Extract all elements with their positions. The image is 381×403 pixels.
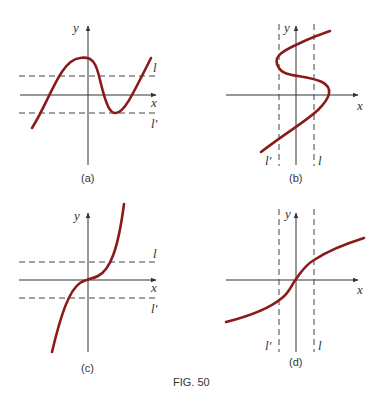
x-label: x <box>356 98 363 113</box>
y-label: y <box>282 20 290 35</box>
panel-d: y x l' l (d) <box>226 206 364 368</box>
line-l-label: l <box>153 246 157 261</box>
panel-c: y x l l' (c) <box>19 204 158 374</box>
panel-b: y x l' l (b) <box>226 20 363 184</box>
line-l-label: l <box>153 60 157 75</box>
line-l-label: l <box>318 153 322 168</box>
line-l-prime-label: l' <box>151 301 158 316</box>
x-label: x <box>150 280 157 295</box>
y-label: y <box>72 208 80 223</box>
panel-label: (d) <box>289 356 302 368</box>
line-l-prime-label: l' <box>265 338 272 353</box>
y-label: y <box>71 20 79 35</box>
panel-label: (b) <box>289 172 302 184</box>
panel-label: (a) <box>81 172 94 184</box>
panel-a: y x l l' (a) <box>19 20 158 184</box>
line-l-label: l <box>318 338 322 353</box>
figure-canvas: y x l l' (a) y x l' l (b) y x l l' (c) <box>0 0 381 403</box>
curve-a <box>32 58 151 128</box>
y-label: y <box>283 206 291 221</box>
line-l-prime-label: l' <box>151 116 158 131</box>
line-l-prime-label: l' <box>265 153 272 168</box>
x-label: x <box>150 95 157 110</box>
panel-label: (c) <box>81 362 94 374</box>
x-label: x <box>356 282 363 297</box>
figure-caption: FIG. 50 <box>173 376 210 388</box>
